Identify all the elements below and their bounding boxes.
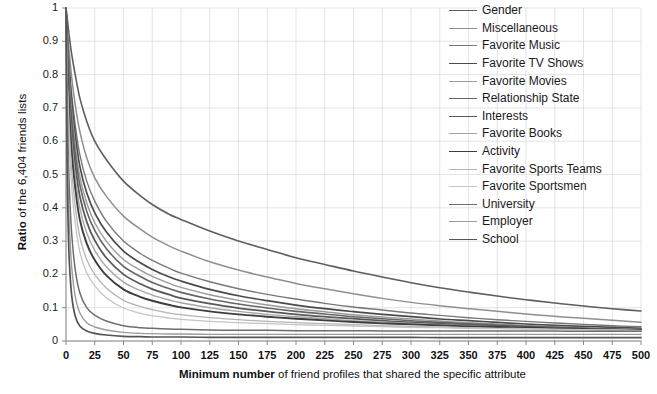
legend-item[interactable]: Relationship State bbox=[449, 90, 655, 108]
y-tick-label: 0.9 bbox=[18, 34, 58, 46]
y-tick-label: 0.1 bbox=[18, 301, 58, 313]
legend-label: University bbox=[482, 198, 535, 211]
legend-swatch-line-icon bbox=[449, 133, 477, 134]
legend-item[interactable]: Favorite Movies bbox=[449, 72, 655, 90]
legend-item[interactable]: Favorite TV Shows bbox=[449, 55, 655, 73]
chart-figure: Ratio of the 6,404 friends lists Minimum… bbox=[0, 0, 657, 394]
y-tick-label: 0.2 bbox=[18, 267, 58, 279]
y-tick-label: 0 bbox=[18, 334, 58, 346]
legend-item[interactable]: Activity bbox=[449, 143, 655, 161]
legend-label: Activity bbox=[482, 145, 520, 158]
legend-swatch-line-icon bbox=[449, 98, 477, 99]
y-tick-label: 0.8 bbox=[18, 68, 58, 80]
legend: GenderMiscellaneousFavorite MusicFavorit… bbox=[449, 2, 655, 248]
y-tick-label: 0.3 bbox=[18, 234, 58, 246]
legend-swatch-line-icon bbox=[449, 28, 477, 29]
legend-label: Favorite Sports Teams bbox=[482, 163, 602, 176]
legend-swatch-line-icon bbox=[449, 151, 477, 152]
y-tick-label: 0.4 bbox=[18, 201, 58, 213]
legend-item[interactable]: University bbox=[449, 196, 655, 214]
legend-label: Employer bbox=[482, 215, 533, 228]
legend-item[interactable]: Favorite Sports Teams bbox=[449, 160, 655, 178]
legend-label: Favorite TV Shows bbox=[482, 57, 583, 70]
x-tick-label: 500 bbox=[621, 349, 657, 361]
x-axis-title-rest: of friend profiles that shared the speci… bbox=[275, 368, 526, 380]
legend-label: Relationship State bbox=[482, 92, 579, 105]
legend-item[interactable]: Employer bbox=[449, 213, 655, 231]
legend-label: Favorite Books bbox=[482, 127, 562, 140]
legend-swatch-line-icon bbox=[449, 186, 477, 187]
legend-item[interactable]: Favorite Books bbox=[449, 125, 655, 143]
legend-label: Gender bbox=[482, 4, 522, 17]
legend-swatch-line-icon bbox=[449, 169, 477, 170]
legend-swatch-line-icon bbox=[449, 81, 477, 82]
legend-item[interactable]: Interests bbox=[449, 108, 655, 126]
x-axis-title-bold: Minimum number bbox=[179, 368, 275, 380]
legend-swatch-line-icon bbox=[449, 63, 477, 64]
legend-label: Favorite Sportsmen bbox=[482, 180, 587, 193]
legend-item[interactable]: School bbox=[449, 231, 655, 249]
y-tick-label: 0.5 bbox=[18, 168, 58, 180]
y-tick-label: 0.7 bbox=[18, 101, 58, 113]
y-tick-label: 0.6 bbox=[18, 134, 58, 146]
legend-label: School bbox=[482, 233, 519, 246]
legend-swatch-line-icon bbox=[449, 204, 477, 205]
x-axis-title: Minimum number of friend profiles that s… bbox=[60, 368, 645, 380]
legend-item[interactable]: Favorite Music bbox=[449, 37, 655, 55]
legend-swatch-line-icon bbox=[449, 221, 477, 222]
legend-item[interactable]: Miscellaneous bbox=[449, 20, 655, 38]
legend-label: Favorite Movies bbox=[482, 75, 567, 88]
legend-swatch-line-icon bbox=[449, 239, 477, 240]
legend-swatch-line-icon bbox=[449, 45, 477, 46]
legend-item[interactable]: Favorite Sportsmen bbox=[449, 178, 655, 196]
y-tick-label: 1 bbox=[18, 1, 58, 13]
legend-label: Miscellaneous bbox=[482, 22, 558, 35]
legend-label: Favorite Music bbox=[482, 39, 560, 52]
legend-swatch-line-icon bbox=[449, 116, 477, 117]
legend-item[interactable]: Gender bbox=[449, 2, 655, 20]
legend-swatch-line-icon bbox=[449, 10, 477, 11]
legend-label: Interests bbox=[482, 110, 528, 123]
